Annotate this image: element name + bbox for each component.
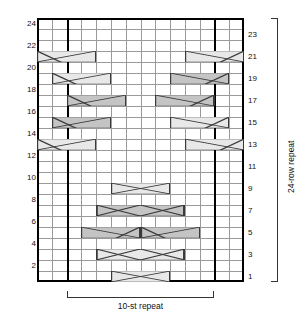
row-number-5: 5 bbox=[248, 227, 272, 238]
cable-symbol-row-7-col-4 bbox=[96, 205, 185, 216]
row-number-24: 24 bbox=[12, 18, 36, 29]
cable-symbol-row-15-col-9 bbox=[170, 117, 229, 128]
row-repeat-bracket bbox=[271, 18, 278, 282]
row-number-10: 10 bbox=[12, 172, 36, 183]
cable-symbol-row-5-col-3 bbox=[81, 227, 140, 238]
cable-symbol-row-9-col-5 bbox=[111, 183, 170, 194]
row-number-1: 1 bbox=[248, 271, 272, 282]
row-number-9: 9 bbox=[248, 183, 272, 194]
row-number-22: 22 bbox=[12, 40, 36, 51]
cable-symbol-row-3-col-4 bbox=[96, 249, 185, 260]
row-repeat-label: 24-row repeat bbox=[286, 141, 296, 193]
stitch-repeat-bracket bbox=[67, 291, 215, 298]
row-number-11: 11 bbox=[248, 161, 272, 172]
row-number-8: 8 bbox=[12, 194, 36, 205]
cable-symbol-row-5-col-7 bbox=[141, 227, 200, 238]
cable-symbol-row-1-col-5 bbox=[111, 271, 170, 282]
row-number-12: 12 bbox=[12, 150, 36, 161]
cable-symbol-row-17-col-2 bbox=[67, 95, 126, 106]
cable-symbol-row-17-col-8 bbox=[155, 95, 214, 106]
cable-symbol-row-19-col-1 bbox=[52, 73, 111, 84]
row-number-16: 16 bbox=[12, 106, 36, 117]
row-number-2: 2 bbox=[12, 260, 36, 271]
row-number-21: 21 bbox=[248, 51, 272, 62]
row-number-23: 23 bbox=[248, 29, 272, 40]
row-number-7: 7 bbox=[248, 205, 272, 216]
row-number-20: 20 bbox=[12, 62, 36, 73]
cable-symbol-row-13-col-0 bbox=[37, 139, 96, 150]
row-number-3: 3 bbox=[248, 249, 272, 260]
row-number-14: 14 bbox=[12, 128, 36, 139]
knitting-chart: 24222018161412108642 2321191715131197531… bbox=[0, 0, 302, 328]
cable-symbol-row-13-col-10 bbox=[185, 139, 244, 150]
row-number-4: 4 bbox=[12, 238, 36, 249]
cable-symbol-row-15-col-1 bbox=[52, 117, 111, 128]
row-number-6: 6 bbox=[12, 216, 36, 227]
cable-symbol-row-21-col-10 bbox=[185, 51, 244, 62]
row-number-19: 19 bbox=[248, 73, 272, 84]
cable-symbol-row-21-col-0 bbox=[37, 51, 96, 62]
row-number-13: 13 bbox=[248, 139, 272, 150]
cable-symbol-row-19-col-9 bbox=[170, 73, 229, 84]
row-number-18: 18 bbox=[12, 84, 36, 95]
row-number-17: 17 bbox=[248, 95, 272, 106]
row-number-15: 15 bbox=[248, 117, 272, 128]
stitch-repeat-label: 10-st repeat bbox=[67, 301, 215, 311]
